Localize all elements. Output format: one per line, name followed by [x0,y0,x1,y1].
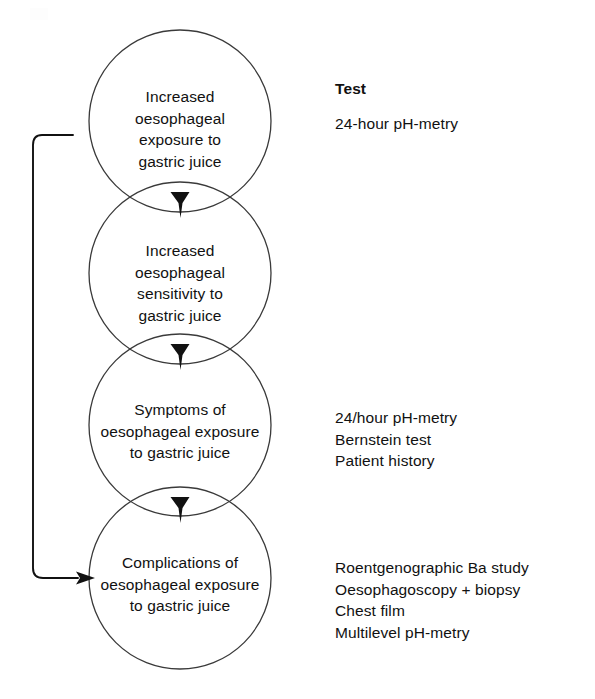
arrowhead-down-2 [171,344,190,370]
circle-label-symptoms: Symptoms of oesophageal exposure to gast… [74,399,286,464]
circle-label-complications: Complications of oesophageal exposure to… [74,552,286,617]
circle-label-increased-exposure: Increased oesophageal exposure to gastri… [90,86,270,172]
feedback-arrow-path [33,135,78,578]
test-group-complications: Roentgenographic Ba study Oesophagoscopy… [335,557,529,643]
arrowhead-down-1 [171,192,190,218]
test-group-symptoms: 24/hour pH-metry Bernstein test Patient … [335,407,457,472]
test-group-increased-exposure: 24-hour pH-metry [335,113,458,135]
diagram-page: Increased oesophageal exposure to gastri… [0,0,595,699]
circle-label-increased-sensitivity: Increased oesophageal sensitivity to gas… [90,240,270,326]
arrowhead-down-3 [171,497,190,523]
test-column-header: Test [335,78,366,100]
